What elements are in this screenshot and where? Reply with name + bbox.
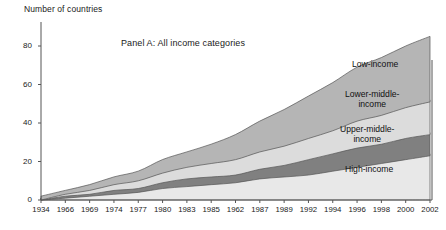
series-label-high-income: High-income bbox=[345, 165, 393, 175]
y-axis-tick-labels: 020406080 bbox=[10, 0, 32, 230]
y-tick-label: 40 bbox=[23, 119, 32, 127]
x-tick-label: 1974 bbox=[105, 205, 122, 214]
x-tick-label: 1969 bbox=[81, 205, 98, 214]
y-tick-label: 0 bbox=[28, 196, 32, 204]
x-tick-label: 1994 bbox=[324, 205, 341, 214]
series-label-line: income bbox=[345, 100, 399, 110]
series-label-low-income: Low-income bbox=[352, 60, 398, 70]
series-label-lower-middle-income: Lower-middle-income bbox=[345, 90, 399, 109]
y-tick-label: 80 bbox=[23, 42, 32, 50]
x-tick-label: 1992 bbox=[300, 205, 317, 214]
series-label-line: Low-income bbox=[352, 60, 398, 70]
x-tick-label: 1977 bbox=[130, 205, 147, 214]
x-tick-label: 2002 bbox=[421, 205, 438, 214]
x-tick-label: 1983 bbox=[178, 205, 195, 214]
x-tick-label: 1934 bbox=[32, 205, 49, 214]
x-tick-label: 1962 bbox=[227, 205, 244, 214]
y-tick-label: 60 bbox=[23, 81, 32, 89]
series-label-line: High-income bbox=[345, 165, 393, 175]
y-tick-label: 20 bbox=[23, 158, 32, 166]
x-tick-label: 1980 bbox=[154, 205, 171, 214]
series-label-line: income bbox=[340, 135, 394, 145]
x-tick-label: 1987 bbox=[251, 205, 268, 214]
x-tick-label: 2000 bbox=[397, 205, 414, 214]
series-label-upper-middle-income: Upper-middle-income bbox=[340, 125, 394, 144]
chart-figure: Number of countries Panel A: All income … bbox=[0, 0, 446, 230]
x-tick-label: 1998 bbox=[373, 205, 390, 214]
x-tick-label: 1966 bbox=[57, 205, 74, 214]
plot-area bbox=[0, 0, 446, 230]
x-tick-label: 1996 bbox=[348, 205, 365, 214]
x-tick-label: 1989 bbox=[275, 205, 292, 214]
x-tick-label: 1985 bbox=[203, 205, 220, 214]
